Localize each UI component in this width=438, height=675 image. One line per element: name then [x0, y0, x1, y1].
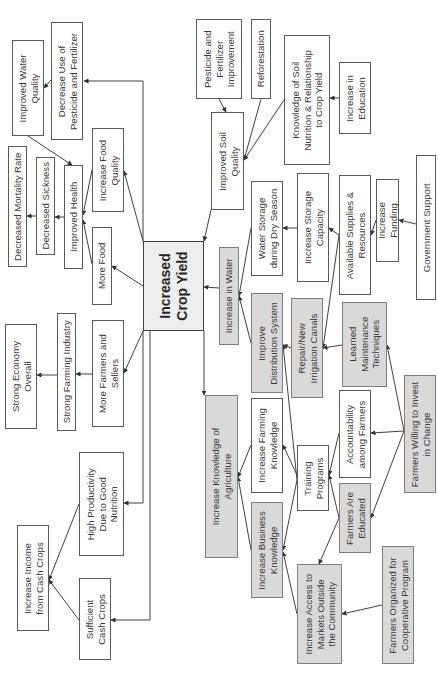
edge-sufficient-cash-to-increase-income [49, 580, 79, 620]
edge-increase-access-to-increase-business [283, 552, 297, 614]
node-label: Reforestation [255, 21, 267, 97]
node-label: Increased Crop Yield [157, 243, 191, 329]
edge-knowledge-soil-to-improved-soil [244, 100, 284, 160]
edge-core-to-high-productivity [124, 331, 143, 503]
node-label: Increase Access to Markets Outside the C… [302, 566, 337, 662]
edge-increase-food-quality-to-improved-health [83, 170, 92, 215]
node-label: Accountability among Farmers [344, 392, 367, 476]
node-available-supplies: Available Supplies & Resources [339, 175, 371, 295]
node-label: Water Storage during Dry Season [256, 183, 279, 274]
node-increase-knowledge-ag: Increase Knowledge of Agriculture [205, 395, 238, 558]
node-increase-education: Increase in Education [339, 62, 371, 134]
node-pesticide-improvement: Pesticide and Fertilizer Improvement [196, 19, 242, 99]
node-increase-business: Increase Business Knowledge [251, 502, 283, 598]
node-label: Increase Funding [376, 181, 399, 260]
edge-accountability-to-training-programs [329, 433, 339, 475]
node-repair-canals: Repair/New Irrigation Canals [291, 298, 323, 398]
edge-farmers-willing-to-farmers-educated [371, 431, 404, 518]
node-high-productivity: High Productivity Due to Good Nutrition [79, 452, 124, 556]
edge-more-food-to-improved-health [83, 220, 92, 264]
node-label: Farmers Willing to Invest in Change [409, 377, 432, 491]
node-label: Pesticide and Fertilizer Improvement [202, 21, 237, 97]
node-label: Available Supplies & Resources [344, 177, 367, 293]
node-improved-water-quality: Improved Water Quality [12, 40, 44, 136]
node-more-food: More Food [92, 227, 112, 305]
node-label: Improved Soil Quality [216, 114, 239, 208]
edge-farmers-educated-to-increase-access [319, 518, 339, 564]
node-label: Increase Food Quality [97, 130, 120, 210]
node-decreased-sickness: Decreased Sickness [36, 157, 55, 255]
node-label: High Productivity Due to Good Nutrition [84, 454, 119, 554]
edge-government-support-to-increase-funding [399, 220, 416, 224]
node-label: More Farmers and Sellers [97, 322, 120, 425]
node-increase-in-water: Increase in Water [219, 247, 239, 345]
node-label: Increase Income from Cash Crops [22, 527, 45, 629]
node-knowledge-soil: Knowledge of Soil Nutrition & Relationsh… [284, 35, 330, 165]
node-label: Improved Health [68, 167, 80, 267]
node-label: More Food [96, 229, 108, 303]
edge-increase-farming-knowledge-to-increase-knowledge-ag [238, 445, 251, 477]
edge-improved-soil-to-core [204, 210, 211, 241]
edge-core-to-more-farmers [124, 331, 143, 373]
node-label: Repair/New Irrigation Canals [296, 300, 319, 396]
edge-high-productivity-to-increase-income [49, 504, 79, 580]
node-label: Decreased Sickness [40, 159, 52, 253]
edge-farmers-willing-to-accountability [371, 431, 404, 433]
node-more-farmers: More Farmers and Sellers [92, 320, 124, 427]
node-water-storage: Water Storage during Dry Season [251, 181, 283, 276]
edge-improve-distribution-to-increase-in-water [239, 296, 251, 343]
crop-yield-concept-map: Increased Crop Yield Improved Water Qual… [0, 0, 438, 675]
node-training-programs: Training Programs [297, 445, 329, 511]
node-label: Knowledge of Soil Nutrition & Relationsh… [290, 37, 325, 163]
edge-increase-in-water-to-core [204, 287, 219, 288]
edge-farmers-willing-to-learned-maintenance [387, 345, 404, 431]
node-learned-maintenance: Learned Maintenance Techniques [342, 302, 387, 387]
node-label: Increase Knowledge of Agriculture [210, 397, 233, 556]
edge-repair-canals-to-improve-distribution [283, 345, 291, 348]
edge-increase-business-to-increase-knowledge-ag [238, 477, 251, 550]
edge-available-supplies-to-increase-storage [329, 228, 339, 235]
node-label: Strong Economy Overall [10, 326, 33, 427]
node-label: Learned Maintenance Techniques [347, 304, 382, 385]
node-increase-funding: Increase Funding [376, 179, 399, 262]
node-label: Increase in Education [344, 64, 367, 132]
node-label: Sufficient Cash Crops [84, 580, 107, 658]
node-label: Government Support [420, 157, 432, 298]
node-decreased-mortality: Decreased Mortality Rate [8, 146, 27, 267]
edge-core-to-more-food [112, 266, 143, 286]
node-label: Decrease Use of Pesticide and Fertilizer [56, 24, 79, 138]
node-core: Increased Crop Yield [143, 241, 204, 331]
edge-core-to-increase-food-quality [124, 171, 143, 241]
node-increase-farming-knowledge: Increase Farming Knowledge [251, 398, 283, 493]
node-strong-economy: Strong Economy Overall [5, 324, 37, 429]
edge-pesticide-improvement-to-improved-soil [219, 99, 226, 112]
edge-farmers-organized-to-increase-access [342, 605, 382, 614]
node-accountability: Accountability among Farmers [339, 390, 371, 478]
node-decrease-pesticide: Decrease Use of Pesticide and Fertilizer [51, 22, 83, 140]
node-label: Increase in Water [223, 249, 235, 343]
node-label: Strong Farming Industry [61, 315, 73, 429]
node-label: Farmers Are Educated [344, 485, 367, 551]
edge-training-programs-to-increase-business [283, 480, 297, 550]
node-label: Farmers Organized for Cooperative Progra… [387, 548, 410, 662]
node-label: Training Programs [302, 447, 325, 509]
node-government-support: Government Support [416, 155, 436, 300]
edge-reforestation-to-improved-soil [244, 99, 261, 160]
node-label: Increase Farming Knowledge [256, 400, 279, 491]
node-label: Improve Distribution System [256, 295, 279, 391]
node-increase-access: Increase Access to Markets Outside the C… [297, 564, 342, 664]
node-increase-income: Increase Income from Cash Crops [17, 525, 49, 631]
node-farmers-willing: Farmers Willing to Invest in Change [404, 375, 436, 493]
edge-water-storage-to-increase-in-water [239, 228, 251, 296]
edge-learned-maintenance-to-repair-canals [323, 345, 342, 348]
node-label: Increase Storage Capacity [302, 175, 325, 280]
node-label: Decreased Mortality Rate [12, 148, 24, 265]
node-sufficient-cash: Sufficient Cash Crops [79, 578, 111, 660]
node-farmers-organized: Farmers Organized for Cooperative Progra… [382, 546, 414, 664]
node-increase-storage: Increase Storage Capacity [297, 173, 329, 282]
node-improved-soil: Improved Soil Quality [211, 112, 244, 210]
node-farmers-educated: Farmers Are Educated [339, 483, 371, 553]
node-reforestation: Reforestation [251, 19, 271, 99]
node-improved-health: Improved Health [64, 165, 83, 269]
node-strong-farming: Strong Farming Industry [57, 313, 76, 431]
